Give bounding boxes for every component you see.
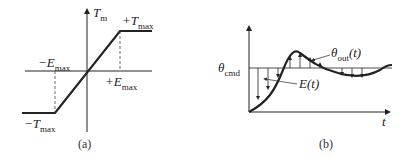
y-axis-label: Tm [93, 5, 107, 23]
plus-emax-label: +Emax [105, 74, 137, 92]
figure-canvas [0, 0, 408, 162]
time-axis-label: t [382, 114, 386, 130]
minus-tmax-label: −Tmax [24, 116, 56, 134]
plus-tmax-label: +Tmax [122, 13, 154, 31]
theta-cmd-label: θcmd [218, 60, 240, 78]
output-curve [249, 51, 392, 112]
caption-b: (b) [319, 137, 333, 152]
step-response-plot [249, 28, 392, 112]
theta-out-label: θout(t) [331, 45, 361, 63]
minus-emax-label: −Emax [38, 55, 70, 73]
error-label: E(t) [299, 76, 319, 92]
caption-a: (a) [78, 137, 91, 152]
